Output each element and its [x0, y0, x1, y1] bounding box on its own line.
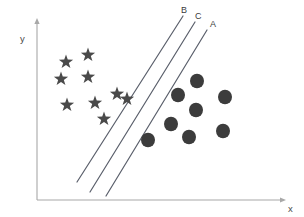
- scatter-plot-figure: BCAxy: [0, 0, 304, 217]
- circle-data-point: [218, 90, 232, 105]
- star-data-point: [97, 111, 111, 125]
- star-markers-group: [54, 47, 134, 125]
- boundary-line-c: [90, 22, 195, 192]
- star-data-point: [81, 69, 95, 83]
- circle-data-point: [190, 74, 204, 89]
- x-axis-arrow-icon: [280, 197, 286, 202]
- circle-data-point: [182, 130, 196, 145]
- circle-data-point: [216, 124, 230, 139]
- circle-markers-group: [141, 74, 232, 148]
- star-data-point: [81, 47, 95, 61]
- star-data-point: [54, 71, 68, 85]
- boundary-label-b: B: [181, 5, 187, 15]
- annotation-labels-group: BCAxy: [20, 5, 293, 214]
- y-axis-label: y: [20, 33, 25, 44]
- x-axis-label: x: [288, 203, 293, 214]
- circle-data-point: [141, 133, 155, 148]
- plot-canvas: BCAxy: [0, 0, 304, 217]
- boundary-label-c: C: [195, 11, 202, 21]
- y-axis-arrow-icon: [34, 18, 39, 24]
- circle-data-point: [189, 103, 203, 118]
- circle-data-point: [164, 117, 178, 132]
- star-data-point: [88, 95, 102, 109]
- star-data-point: [60, 97, 74, 111]
- boundary-label-a: A: [210, 19, 216, 29]
- axes-group: [34, 18, 286, 203]
- star-data-point: [59, 54, 73, 68]
- circle-data-point: [171, 88, 185, 103]
